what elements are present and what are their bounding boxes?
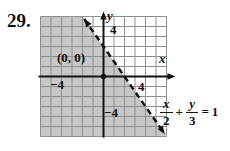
plus-sign: + [176, 105, 183, 119]
equation-right-side: 1 [212, 105, 219, 119]
x-tick-label-neg4: −4 [50, 78, 64, 91]
origin-point-dot [101, 74, 106, 79]
problem-number: 29. [7, 11, 31, 30]
equals-sign: = [201, 105, 208, 119]
x-tick-label-4: 4 [138, 80, 145, 93]
fraction-denominator-2: 2 [160, 112, 173, 128]
fraction-numerator-x: x [160, 97, 173, 112]
textbook-figure: { "problem_number": "29.", "colors": { "… [0, 0, 230, 151]
y-axis-label: y [107, 9, 113, 22]
x-axis-label: x [159, 52, 166, 65]
y-tick-label-neg4: −4 [104, 106, 118, 119]
test-point-label: (0, 0) [57, 51, 85, 64]
inequality-boundary-equation: x 2 + y 3 = 1 [160, 97, 218, 127]
fraction-numerator-y: y [186, 97, 199, 112]
y-axis-arrowhead [100, 12, 106, 20]
y-tick-label-4: 4 [110, 23, 117, 36]
fraction-y-over-3: y 3 [186, 97, 199, 127]
fraction-x-over-2: x 2 [160, 97, 173, 127]
fraction-denominator-3: 3 [186, 112, 199, 128]
x-axis-arrowhead [168, 73, 176, 79]
